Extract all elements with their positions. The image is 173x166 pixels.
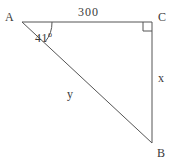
degree-symbol-icon: o <box>48 30 53 39</box>
right-angle-marker-c <box>143 22 152 31</box>
side-length-label-cb: x <box>158 72 164 84</box>
angle-measure-label-a: 41o <box>35 31 53 44</box>
angle-value-a: 41 <box>35 31 48 45</box>
side-length-label-ab: y <box>67 88 73 100</box>
triangle-figure <box>0 0 173 166</box>
side-length-label-ac: 300 <box>78 6 99 18</box>
vertex-label-c: C <box>158 11 166 23</box>
vertex-label-a: A <box>5 11 14 23</box>
vertex-label-b: B <box>157 147 165 159</box>
geometry-diagram: A C B 300 x y 41o <box>0 0 173 166</box>
